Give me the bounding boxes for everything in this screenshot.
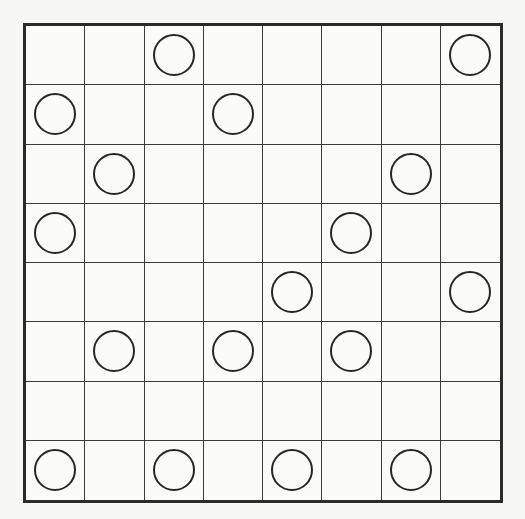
grid-cell-r6-c8[interactable] [441,322,500,381]
grid-cell-r7-c8[interactable] [441,382,500,441]
circle-stone[interactable] [390,449,432,491]
circle-stone[interactable] [271,449,313,491]
grid-cell-r1-c3[interactable] [145,26,204,85]
grid-cell-r6-c5[interactable] [263,322,322,381]
grid-cell-r8-c7[interactable] [382,441,441,500]
grid-cell-r3-c6[interactable] [322,145,381,204]
grid-cell-r1-c4[interactable] [204,26,263,85]
grid-cell-r8-c3[interactable] [145,441,204,500]
grid-cell-r5-c6[interactable] [322,263,381,322]
grid-cell-r8-c5[interactable] [263,441,322,500]
grid-cell-r7-c7[interactable] [382,382,441,441]
grid-cell-r6-c7[interactable] [382,322,441,381]
grid-cell-r6-c4[interactable] [204,322,263,381]
grid-cell-r2-c3[interactable] [145,85,204,144]
grid-cell-r6-c3[interactable] [145,322,204,381]
grid-cell-r6-c1[interactable] [26,322,85,381]
circle-stone[interactable] [271,271,313,313]
grid-cell-r5-c5[interactable] [263,263,322,322]
grid-cell-r7-c1[interactable] [26,382,85,441]
puzzle-grid-board[interactable] [23,23,503,503]
grid-cell-r6-c6[interactable] [322,322,381,381]
circle-stone[interactable] [153,34,195,76]
grid-cell-r5-c3[interactable] [145,263,204,322]
grid-cell-r4-c5[interactable] [263,204,322,263]
grid-cell-r5-c8[interactable] [441,263,500,322]
grid-cell-r7-c2[interactable] [85,382,144,441]
puzzle-page [0,0,525,519]
circle-stone[interactable] [93,153,135,195]
grid-cell-r7-c5[interactable] [263,382,322,441]
grid-cell-r4-c6[interactable] [322,204,381,263]
circle-stone[interactable] [330,330,372,372]
circle-stone[interactable] [212,93,254,135]
circle-stone[interactable] [449,34,491,76]
grid-cell-r3-c4[interactable] [204,145,263,204]
grid-cell-r3-c7[interactable] [382,145,441,204]
circle-stone[interactable] [449,271,491,313]
grid-cell-r6-c2[interactable] [85,322,144,381]
grid-cell-r4-c8[interactable] [441,204,500,263]
grid-cell-r3-c1[interactable] [26,145,85,204]
grid-cell-r2-c1[interactable] [26,85,85,144]
circle-stone[interactable] [390,153,432,195]
grid-cell-r7-c6[interactable] [322,382,381,441]
grid-cell-r7-c4[interactable] [204,382,263,441]
grid-cell-r8-c2[interactable] [85,441,144,500]
grid-cell-r2-c6[interactable] [322,85,381,144]
grid-cell-r5-c1[interactable] [26,263,85,322]
grid-cell-r5-c4[interactable] [204,263,263,322]
grid-cell-r8-c8[interactable] [441,441,500,500]
grid-cell-container [26,26,500,500]
grid-cell-r5-c2[interactable] [85,263,144,322]
grid-cell-r2-c4[interactable] [204,85,263,144]
grid-cell-r4-c2[interactable] [85,204,144,263]
circle-stone[interactable] [212,330,254,372]
circle-stone[interactable] [93,330,135,372]
grid-cell-r7-c3[interactable] [145,382,204,441]
grid-cell-r2-c8[interactable] [441,85,500,144]
circle-stone[interactable] [34,212,76,254]
grid-cell-r1-c6[interactable] [322,26,381,85]
grid-cell-r2-c5[interactable] [263,85,322,144]
grid-cell-r3-c3[interactable] [145,145,204,204]
grid-cell-r4-c7[interactable] [382,204,441,263]
grid-cell-r4-c4[interactable] [204,204,263,263]
grid-cell-r8-c1[interactable] [26,441,85,500]
grid-cell-r1-c2[interactable] [85,26,144,85]
circle-stone[interactable] [330,212,372,254]
grid-cell-r1-c1[interactable] [26,26,85,85]
grid-cell-r4-c3[interactable] [145,204,204,263]
grid-cell-r4-c1[interactable] [26,204,85,263]
grid-cell-r5-c7[interactable] [382,263,441,322]
grid-cell-r3-c5[interactable] [263,145,322,204]
grid-cell-r1-c8[interactable] [441,26,500,85]
grid-cell-r8-c4[interactable] [204,441,263,500]
grid-cell-r8-c6[interactable] [322,441,381,500]
circle-stone[interactable] [34,449,76,491]
grid-cell-r2-c7[interactable] [382,85,441,144]
grid-cell-r1-c5[interactable] [263,26,322,85]
grid-cell-r3-c8[interactable] [441,145,500,204]
circle-stone[interactable] [34,93,76,135]
grid-cell-r2-c2[interactable] [85,85,144,144]
grid-cell-r3-c2[interactable] [85,145,144,204]
circle-stone[interactable] [153,449,195,491]
grid-cell-r1-c7[interactable] [382,26,441,85]
